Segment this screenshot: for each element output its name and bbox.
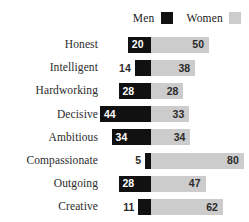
- diverging-bar-chart: Men Women Honest2050Intelligent1438Hardw…: [0, 0, 249, 222]
- bar-value-men: 28: [119, 86, 135, 97]
- legend-label-men: Men: [133, 12, 155, 24]
- bar-value-men: 34: [112, 132, 128, 143]
- bar-value-women: 47: [189, 178, 206, 189]
- legend-label-women: Women: [187, 12, 223, 24]
- chart-legend: Men Women: [0, 8, 249, 28]
- bar-women: 28: [151, 83, 183, 99]
- women-swatch-icon: [229, 12, 241, 24]
- bar-track: 2050: [0, 33, 249, 56]
- legend-entry-women: Women: [187, 12, 241, 24]
- chart-row: Intelligent1438: [0, 56, 249, 79]
- chart-row: Ambitious3434: [0, 126, 249, 149]
- bar-men: 28: [119, 176, 151, 192]
- bar-value-men: 20: [128, 39, 144, 50]
- bar-track: 1438: [0, 56, 249, 79]
- bar-value-women: 80: [227, 155, 244, 166]
- bar-men: 28: [119, 83, 151, 99]
- bar-value-women: 50: [192, 39, 209, 50]
- bar-value-men: 5: [135, 155, 145, 166]
- bar-track: 3434: [0, 126, 249, 149]
- chart-row: Creative1162: [0, 195, 249, 218]
- bar-value-men: 28: [119, 178, 135, 189]
- bar-value-women: 62: [206, 202, 223, 213]
- bar-women: 47: [151, 176, 206, 192]
- bar-value-men: 14: [119, 63, 135, 74]
- chart-row: Compassionate580: [0, 149, 249, 172]
- bar-men: 34: [112, 129, 151, 145]
- bar-value-women: 34: [174, 132, 191, 143]
- bar-track: 580: [0, 149, 249, 172]
- bar-value-men: 44: [100, 109, 116, 120]
- bar-men: 20: [128, 37, 151, 53]
- bar-men: 44: [100, 106, 151, 122]
- chart-row: Honest2050: [0, 33, 249, 56]
- bar-value-women: 33: [173, 109, 190, 120]
- bar-women: 33: [151, 106, 189, 122]
- bar-track: 2847: [0, 172, 249, 195]
- chart-row: Hardworking2828: [0, 79, 249, 102]
- bar-men: 11: [138, 199, 151, 215]
- chart-row: Outgoing2847: [0, 172, 249, 195]
- bar-value-men: 11: [123, 202, 138, 213]
- bar-value-women: 28: [167, 86, 184, 97]
- bar-value-women: 38: [178, 63, 195, 74]
- bar-women: 34: [151, 129, 190, 145]
- bar-track: 4433: [0, 103, 249, 126]
- chart-rows: Honest2050Intelligent1438Hardworking2828…: [0, 33, 249, 219]
- bar-women: 62: [151, 199, 223, 215]
- men-swatch-icon: [161, 12, 173, 24]
- chart-row: Decisive4433: [0, 103, 249, 126]
- bar-women: 38: [151, 60, 195, 76]
- legend-entry-men: Men: [133, 12, 173, 24]
- bar-women: 50: [151, 37, 209, 53]
- bar-men: 14: [135, 60, 151, 76]
- bar-track: 2828: [0, 79, 249, 102]
- bar-track: 1162: [0, 195, 249, 218]
- bar-women: 80: [151, 153, 244, 169]
